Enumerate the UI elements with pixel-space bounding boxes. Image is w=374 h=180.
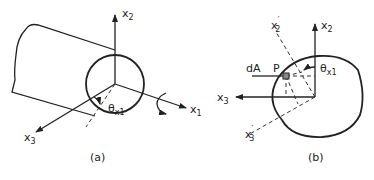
angle-theta-x1: [304, 67, 315, 70]
label-x2: x2: [122, 7, 134, 22]
label-theta-x1: θx1: [108, 102, 125, 117]
label-x2-prime: x′2: [271, 16, 280, 34]
axis-x3: [36, 84, 115, 132]
rotated-axis-x2-prime: [276, 32, 315, 97]
caption-a: (a): [90, 151, 105, 164]
angle-theta-x1: [94, 97, 100, 104]
label-x2: x2: [321, 19, 333, 34]
figure: x2 x1 x3 θx1 (a) x2 x′2 x3 x′3 dA: [0, 0, 374, 180]
projection-line: [286, 76, 298, 104]
label-P: P: [273, 62, 280, 75]
label-x1: x1: [190, 103, 202, 118]
rotated-axis-x3-prime: [248, 97, 315, 135]
label-dA: dA: [246, 62, 261, 75]
panel-b: x2 x′2 x3 x′3 dA P θx1 (b): [217, 16, 363, 164]
rotation-arrow-icon: [157, 93, 166, 114]
label-x3: x3: [24, 131, 36, 146]
label-x3-prime: x′3: [245, 125, 254, 143]
label-x3: x3: [217, 91, 229, 106]
area-element-dA: [283, 73, 289, 79]
axis-x1: [115, 84, 186, 108]
label-theta-x1: θx1: [320, 62, 337, 77]
caption-b: (b): [308, 151, 324, 164]
panel-a: x2 x1 x3 θx1 (a): [12, 7, 202, 164]
